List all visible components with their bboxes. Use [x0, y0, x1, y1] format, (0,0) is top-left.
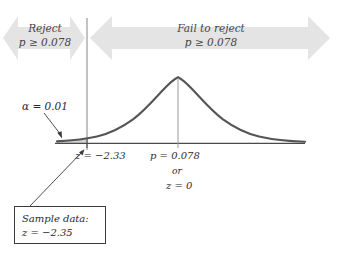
reject-label-title: Reject	[8, 22, 82, 36]
sample-data-title: Sample data:	[22, 213, 89, 224]
reject-arrow-label: Reject p ≥ 0.078	[8, 22, 82, 49]
critical-value-label: z = −2.33	[75, 150, 126, 163]
fail-to-reject-arrow-label: Fail to reject p ≥ 0.078	[96, 22, 326, 49]
normal-curve	[57, 77, 305, 142]
alpha-leader-line	[44, 113, 61, 135]
alpha-leader-arrowhead	[57, 131, 62, 138]
p-value-label: p = 0.078	[150, 150, 200, 163]
sample-data-value: z = −2.35	[22, 227, 73, 238]
hypothesis-test-diagram: Reject p ≥ 0.078 Fail to reject p ≥ 0.07…	[0, 0, 337, 254]
reject-label-condition: p ≥ 0.078	[8, 36, 82, 50]
sample-data-callout-box: Sample data: z = −2.35	[14, 206, 106, 244]
alpha-level-label: α = 0.01	[22, 100, 68, 113]
fail-to-reject-label-condition: p ≥ 0.078	[96, 36, 326, 50]
center-z-label: z = 0	[166, 180, 192, 193]
fail-to-reject-label-title: Fail to reject	[96, 22, 326, 36]
or-connector-label: or	[172, 166, 182, 177]
